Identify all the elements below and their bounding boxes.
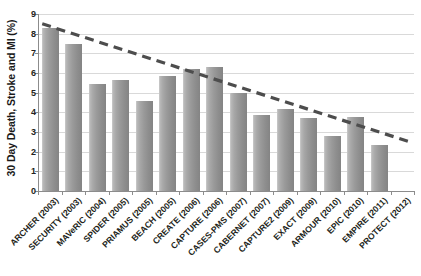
bar — [112, 80, 129, 191]
y-tick-label: 7 — [22, 49, 36, 58]
bar — [347, 117, 364, 191]
y-tick-label: 6 — [22, 69, 36, 78]
bar — [42, 28, 59, 191]
bar — [230, 93, 247, 191]
y-tick-label: 1 — [22, 167, 36, 176]
bar — [277, 109, 294, 191]
y-axis-title-text: 30 Day Death, Stroke and MI (%) — [5, 20, 17, 177]
bar — [371, 145, 388, 191]
x-category-labels: ARCHER (2003)SECURITY (2003)MAVeRIC (200… — [38, 196, 414, 276]
y-tick-label: 2 — [22, 147, 36, 156]
x-tick-mark — [414, 191, 415, 195]
y-tick-label: 3 — [22, 128, 36, 137]
bar — [89, 84, 106, 191]
bar — [206, 67, 223, 191]
bars-layer — [38, 14, 414, 191]
y-tick-labels: 9876543210 — [22, 14, 36, 191]
bar — [253, 115, 270, 191]
x-tick-mark — [344, 191, 345, 195]
x-tick-mark — [391, 191, 392, 195]
x-tick-mark — [226, 191, 227, 195]
x-tick-mark — [250, 191, 251, 195]
x-tick-mark — [203, 191, 204, 195]
bar — [136, 101, 153, 191]
y-tick-label: 5 — [22, 88, 36, 97]
x-tick-mark — [38, 191, 39, 195]
x-tick-mark — [62, 191, 63, 195]
plot-area: 9876543210 — [38, 14, 414, 191]
bar — [300, 118, 317, 191]
bar — [65, 44, 82, 192]
x-tick-mark — [109, 191, 110, 195]
x-tick-mark — [273, 191, 274, 195]
x-tick-mark — [132, 191, 133, 195]
bar — [324, 136, 341, 191]
x-tick-mark — [367, 191, 368, 195]
bar-chart-figure: 30 Day Death, Stroke and MI (%) 98765432… — [0, 0, 421, 276]
x-tick-mark — [297, 191, 298, 195]
y-tick-label: 4 — [22, 108, 36, 117]
bar — [183, 69, 200, 191]
x-tick-mark — [85, 191, 86, 195]
y-tick-label: 8 — [22, 29, 36, 38]
x-tick-mark — [156, 191, 157, 195]
bar — [159, 76, 176, 191]
y-axis-title: 30 Day Death, Stroke and MI (%) — [0, 0, 22, 196]
y-tick-label: 0 — [22, 187, 36, 196]
y-tick-label: 9 — [22, 10, 36, 19]
x-tick-mark — [320, 191, 321, 195]
x-tick-mark — [179, 191, 180, 195]
